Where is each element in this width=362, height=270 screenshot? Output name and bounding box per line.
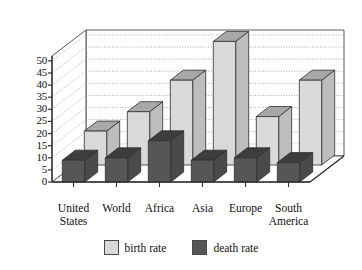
bar-death-rate-2 [148, 131, 183, 182]
y-tick-label-0: 0 [25, 177, 47, 186]
legend-item-death-rate: death rate [192, 240, 258, 255]
y-tick-label-40: 40 [25, 80, 47, 89]
y-tick-label-5: 5 [25, 165, 47, 174]
bar-death-rate-0-face [62, 160, 84, 182]
x-axis-category-labels: UnitedStatesWorldAfricaAsiaEuropeSouthAm… [0, 196, 362, 238]
x-category-label-line: South [252, 202, 326, 215]
y-tick-label-20: 20 [25, 129, 47, 138]
bar-chart-svg [40, 18, 350, 196]
bar-death-rate-3-face [191, 160, 213, 182]
legend-item-birth-rate: birth rate [104, 240, 167, 255]
x-category-label-line: America [252, 215, 326, 228]
bar-death-rate-5-face [277, 163, 299, 182]
bar-birth-rate-3 [213, 31, 248, 165]
bar-birth-rate-5-side [322, 70, 335, 165]
y-tick-label-15: 15 [25, 141, 47, 150]
chart-figure: 50454035302520151050 UnitedStatesWorldAf… [0, 0, 362, 270]
bar-birth-rate-3-side [236, 31, 249, 165]
y-tick-label-10: 10 [25, 153, 47, 162]
bar-death-rate-2-face [148, 141, 170, 182]
legend-swatch-death-rate [192, 240, 207, 255]
y-tick-label-25: 25 [25, 116, 47, 125]
legend-label: death rate [213, 242, 258, 254]
plot-area [40, 18, 350, 196]
y-tick-label-50: 50 [25, 56, 47, 65]
bar-death-rate-1-face [105, 158, 127, 182]
y-tick-label-30: 30 [25, 104, 47, 113]
chart-legend: birth ratedeath rate [0, 240, 362, 255]
legend-label: birth rate [125, 242, 167, 254]
y-tick-label-35: 35 [25, 92, 47, 101]
y-tick-label-45: 45 [25, 68, 47, 77]
x-category-label-5: SouthAmerica [252, 202, 326, 228]
x-category-label-line: States [37, 215, 111, 228]
bar-death-rate-4-face [234, 158, 256, 182]
bar-birth-rate-5 [299, 70, 334, 165]
legend-swatch-birth-rate [104, 240, 119, 255]
bar-birth-rate-3-face [213, 41, 235, 165]
